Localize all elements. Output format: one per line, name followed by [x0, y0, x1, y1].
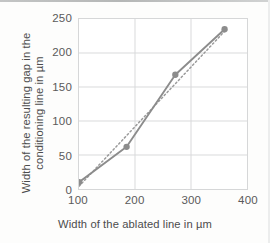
plot-svg [79, 19, 247, 189]
y-tick-label: 100 [40, 115, 72, 127]
x-tick-label: 300 [166, 194, 216, 206]
chart-figure: Width of the resulting gap in the condit… [0, 0, 270, 243]
y-tick-label: 200 [40, 46, 72, 58]
y-axis-title-line-1: Width of the resulting gap in the [20, 33, 33, 194]
horizontal-gridlines [79, 53, 247, 155]
y-tick-label: 150 [40, 81, 72, 93]
vertical-gridlines [135, 19, 191, 189]
x-tick-label: 100 [53, 194, 103, 206]
data-point-marker [221, 26, 227, 32]
x-axis-tick-labels: 100 200 300 400 [0, 194, 270, 212]
x-axis-title: Width of the ablated line in µm [0, 218, 270, 230]
x-tick-label: 200 [110, 194, 160, 206]
plot-area [78, 18, 248, 190]
data-point-marker [172, 72, 178, 78]
data-series-line [79, 29, 225, 182]
y-tick-label: 50 [40, 150, 72, 162]
x-tick-label: 400 [223, 194, 270, 206]
data-point-marker [123, 144, 129, 150]
y-tick-label: 250 [40, 12, 72, 24]
